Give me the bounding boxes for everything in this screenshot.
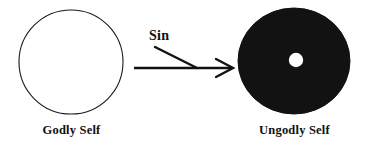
ungodly-self-label: Ungodly Self	[222, 124, 367, 137]
sin-connector-label: Sin	[149, 29, 169, 43]
godly-self-circle	[19, 10, 123, 114]
diagram-canvas: Godly Self Ungodly Self Sin	[0, 0, 370, 149]
godly-self-label: Godly Self	[0, 124, 143, 137]
ungodly-self-disc-hole	[289, 53, 303, 67]
sin-label-leader-line	[155, 47, 197, 68]
